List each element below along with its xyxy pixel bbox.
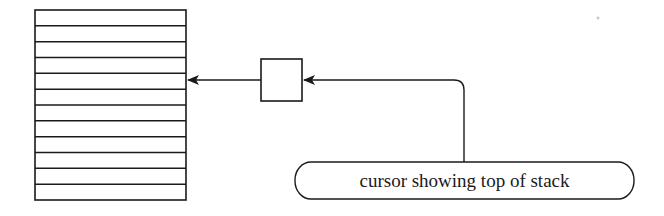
label-callout: cursor showing top of stack xyxy=(295,162,634,199)
scan-speck xyxy=(597,17,600,20)
cursor-box xyxy=(261,59,302,101)
label-text: cursor showing top of stack xyxy=(359,170,570,191)
stack-cursor-diagram: cursor showing top of stack xyxy=(0,0,664,216)
arrow-label-to-cursor xyxy=(304,80,464,162)
stack-block xyxy=(35,10,186,200)
stack-row-dividers xyxy=(35,26,186,184)
